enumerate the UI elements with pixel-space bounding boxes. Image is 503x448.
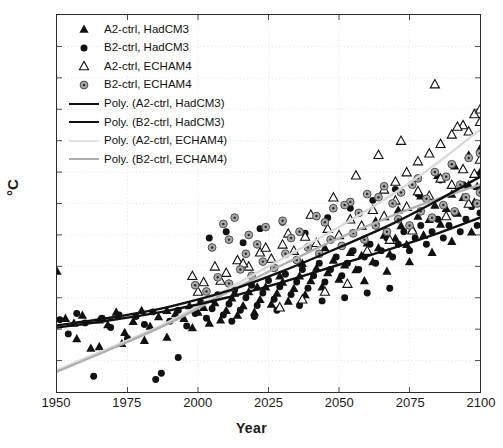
- x-tick-1950: 1950: [42, 396, 71, 409]
- legend-item-2: A2-ctrl, ECHAM4: [64, 57, 274, 76]
- x-tick-2075: 2075: [396, 396, 425, 409]
- legend-marker-line-icon: [64, 94, 104, 113]
- legend-marker-line-icon: [64, 113, 104, 132]
- legend-label: Poly. (A2-ctrl, ECHAM4): [104, 135, 227, 147]
- legend-line-swatch: [69, 103, 99, 105]
- legend-label: A2-ctrl, HadCM3: [104, 24, 189, 36]
- legend-label: Poly. (A2-ctrl, HadCM3): [104, 98, 225, 110]
- legend-marker-dotted-circle-icon: [64, 76, 104, 95]
- legend-item-1: B2-ctrl, HadCM3: [64, 39, 274, 58]
- legend-marker-filled-circle-icon: [64, 39, 104, 58]
- legend-marker-line-icon: [64, 150, 104, 169]
- legend-marker-filled-triangle-icon: [64, 20, 104, 39]
- legend-item-7: Poly. (B2-ctrl, ECHAM4): [64, 150, 274, 169]
- legend-label: A2-ctrl, ECHAM4: [104, 61, 192, 73]
- legend-item-0: A2-ctrl, HadCM3: [64, 20, 274, 39]
- y-axis-title: °C: [4, 179, 21, 196]
- legend-label: Poly. (B2-ctrl, HadCM3): [104, 117, 225, 129]
- x-tick-2000: 2000: [183, 396, 212, 409]
- x-axis-title: Year: [0, 420, 503, 436]
- legend-label: B2-ctrl, ECHAM4: [104, 79, 192, 91]
- x-tick-2050: 2050: [325, 396, 354, 409]
- x-tick-2100: 2100: [467, 396, 496, 409]
- legend-marker-open-triangle-icon: [64, 57, 104, 76]
- chart-legend: A2-ctrl, HadCM3B2-ctrl, HadCM3A2-ctrl, E…: [64, 20, 274, 169]
- legend-line-swatch: [69, 121, 99, 123]
- legend-item-4: Poly. (A2-ctrl, HadCM3): [64, 94, 274, 113]
- legend-item-3: B2-ctrl, ECHAM4: [64, 76, 274, 95]
- legend-marker-line-icon: [64, 132, 104, 151]
- x-tick-1975: 1975: [112, 396, 141, 409]
- x-tick-2025: 2025: [254, 396, 283, 409]
- legend-item-5: Poly. (B2-ctrl, HadCM3): [64, 113, 274, 132]
- legend-label: Poly. (B2-ctrl, ECHAM4): [104, 154, 227, 166]
- legend-line-swatch: [69, 158, 99, 160]
- legend-label: B2-ctrl, HadCM3: [104, 42, 189, 54]
- chart-figure: -2-1012345678910 °C 19501975200020252050…: [0, 0, 503, 448]
- legend-line-swatch: [69, 140, 99, 142]
- legend-item-6: Poly. (A2-ctrl, ECHAM4): [64, 132, 274, 151]
